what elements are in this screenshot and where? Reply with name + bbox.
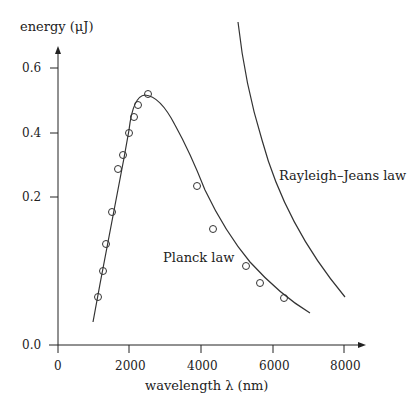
x-tick-label-4000: 4000 [187,359,218,373]
x-tick-label-0: 0 [54,359,62,373]
y-tick-label-0.6: 0.6 [22,61,41,75]
x-axis-label: wavelength λ (nm) [145,378,268,393]
y-tick-label-0.2: 0.2 [22,190,41,204]
x-ticks [58,345,344,353]
planck-curve [93,95,310,322]
x-tick-label-8000: 8000 [330,359,361,373]
rayleigh-jeans-label: Rayleigh–Jeans law [279,168,406,183]
rayleigh-jeans-curve [238,22,345,297]
y-ticks [50,68,58,197]
x-tick-label-6000: 6000 [259,359,290,373]
chart-canvas [0,0,409,412]
x-tick-label-2000: 2000 [115,359,146,373]
y-tick-label-0.0: 0.0 [22,338,41,352]
y-tick-label-0.4: 0.4 [22,126,41,140]
y-axis-label: energy (μJ) [20,19,94,34]
data-points [95,91,288,302]
planck-law-label: Planck law [163,250,234,265]
